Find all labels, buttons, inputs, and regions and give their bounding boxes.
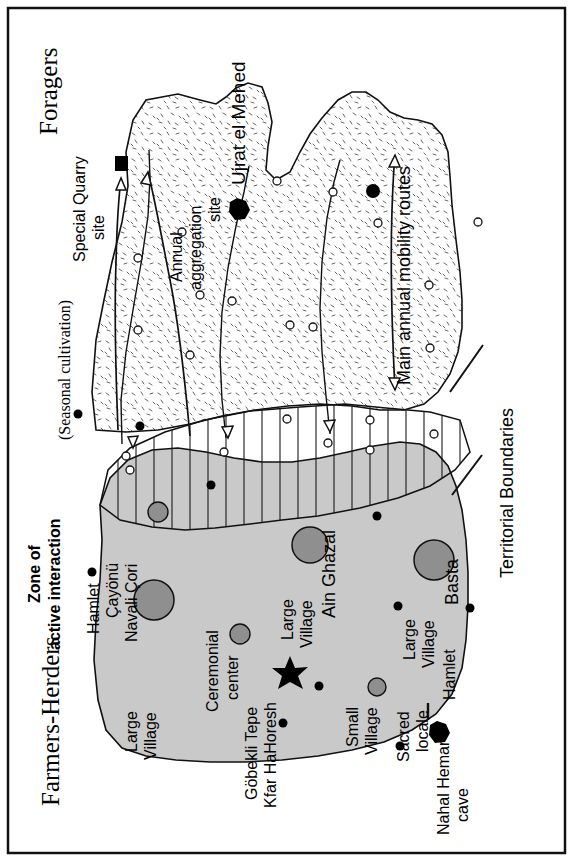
marker-cayonu-large-village[interactable] <box>134 580 174 620</box>
label-hamlet-right: Hamlet <box>441 649 458 700</box>
label-mobility-routes: Main annual mobility routes <box>394 166 414 385</box>
label-annual-line2: aggregation <box>187 205 204 290</box>
label-foragers: Foragers <box>35 48 62 135</box>
marker-hamlet-2[interactable] <box>373 512 382 521</box>
label-ceremonial-center-b: center <box>224 655 241 700</box>
marker-hamlet-5[interactable] <box>279 719 288 728</box>
label-navali-cori: Navali Çori <box>123 564 140 642</box>
label-large-village-3a: Large <box>401 619 418 660</box>
label-ujrat-el-mehed: Ujrat el Mehed <box>228 61 249 185</box>
marker-small-village[interactable] <box>368 678 386 696</box>
label-ceremonial-center-a: Ceremonial <box>204 630 221 712</box>
label-gobekli-tepe: Göbekli Tepe <box>243 707 260 800</box>
marker-medium-village-1[interactable] <box>230 624 250 644</box>
marker-seasonal-dot-2[interactable] <box>136 422 145 431</box>
label-ain-ghazal: Ain Ghazal <box>319 530 339 618</box>
marker-hamlet-4[interactable] <box>315 682 324 691</box>
marker-special-quarry-site[interactable] <box>115 156 128 171</box>
label-nahal-hemar: Nahal Hemar <box>435 740 452 835</box>
figure-canvas: Foragers Farmers-Herders Zone of active … <box>0 0 573 861</box>
marker-forager-camp-large[interactable] <box>366 184 380 198</box>
label-special-quarry-line1: Special Quarry <box>71 156 88 262</box>
label-large-village-3b: Village <box>420 620 437 668</box>
label-large-village-1a: Large <box>123 711 140 752</box>
marker-seasonal-dot-1[interactable] <box>74 410 83 419</box>
label-farmers-herders: Farmers-Herders <box>37 637 64 806</box>
label-territorial-boundaries: Territorial Boundaries <box>497 408 517 578</box>
label-nahal-hemar-cave: cave <box>454 788 471 822</box>
archaeology-territory-map: Foragers Farmers-Herders Zone of active … <box>0 0 573 861</box>
label-small-village-b: Village <box>363 707 380 755</box>
marker-navali-cori-village[interactable] <box>148 502 168 522</box>
label-cayonu: Çayönü <box>104 563 121 618</box>
marker-hamlet-left[interactable] <box>88 568 97 577</box>
label-zone-line1: Zone of <box>26 545 43 603</box>
label-basta: Basta <box>442 558 462 605</box>
label-small-village-a: Small <box>344 707 361 747</box>
label-seasonal-cultivation: (Seasonal cultivation) <box>56 300 74 440</box>
label-large-village-2b: Village <box>298 600 315 648</box>
label-annual-line1: Annual <box>168 232 185 282</box>
label-large-village-2a: Large <box>279 599 296 640</box>
label-hamlet-left: Hamlet <box>85 583 102 634</box>
label-sacred-locale-a: Sacred <box>395 711 412 762</box>
marker-hamlet-3[interactable] <box>394 602 403 611</box>
label-annual-line3: site <box>206 197 223 222</box>
label-large-village-1b: Village <box>142 712 159 760</box>
label-kfar-hahoresh: Kfar HaHoresh <box>262 702 279 808</box>
label-zone-line2: active interaction <box>46 518 63 650</box>
label-special-quarry-line2: site <box>90 215 107 240</box>
label-sacred-locale-b: locale <box>414 710 431 752</box>
marker-hamlet-right[interactable] <box>466 604 475 613</box>
marker-hamlet-1[interactable] <box>207 481 216 490</box>
